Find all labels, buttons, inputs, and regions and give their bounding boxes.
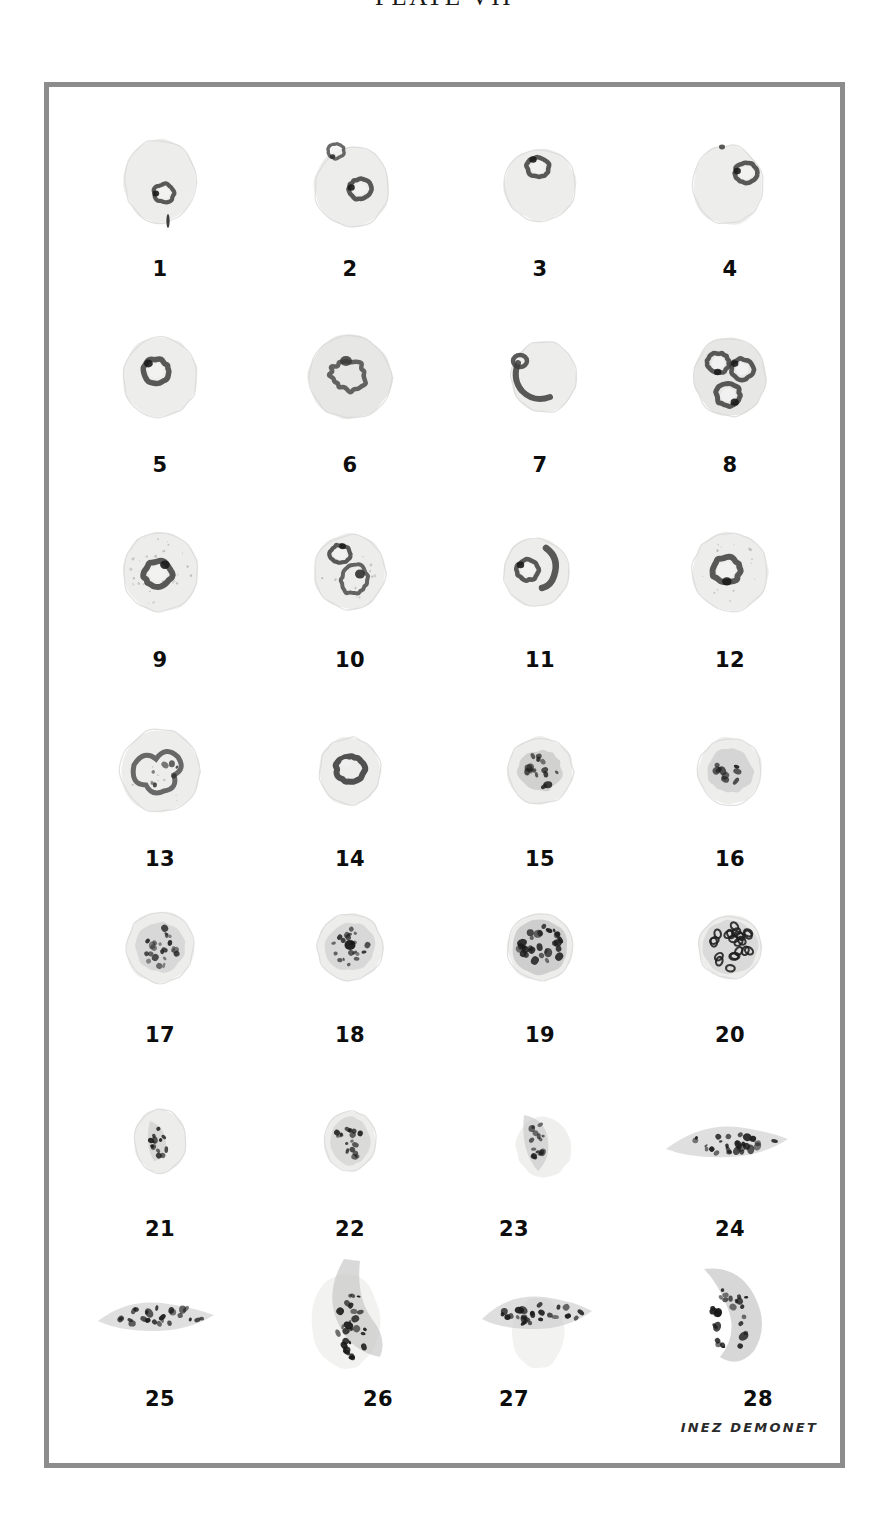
- figure-7: 7: [447, 305, 633, 501]
- specimen-illustration-11: [447, 500, 633, 650]
- figure-number-23: 23: [421, 1217, 607, 1241]
- figure-number-4: 4: [637, 257, 823, 281]
- specimen-illustration-24: [637, 1069, 823, 1219]
- plate-frame: 1234567891011121314151617181920212223242…: [44, 82, 845, 1468]
- specimen-illustration-21: [67, 1069, 253, 1219]
- figure-number-8: 8: [637, 453, 823, 477]
- figure-number-1: 1: [67, 257, 253, 281]
- page-title: PLATE VII: [0, 0, 888, 11]
- figure-number-25: 25: [67, 1387, 253, 1411]
- figure-9: 9: [67, 500, 253, 696]
- figure-number-5: 5: [67, 453, 253, 477]
- specimen-illustration-19: [447, 875, 633, 1025]
- figure-14: 14: [257, 699, 443, 895]
- figure-28: 28: [637, 1245, 823, 1441]
- figure-11: 11: [447, 500, 633, 696]
- figure-number-12: 12: [637, 648, 823, 672]
- specimen-illustration-27: [447, 1245, 633, 1395]
- figure-22: 22: [257, 1069, 443, 1265]
- specimen-illustration-6: [257, 305, 443, 455]
- plate-title-area: PLATE VII: [0, 0, 888, 12]
- figure-17: 17: [67, 875, 253, 1071]
- figure-number-27: 27: [421, 1387, 607, 1411]
- figure-grid: 1234567891011121314151617181920212223242…: [49, 87, 840, 1463]
- figure-number-17: 17: [67, 1023, 253, 1047]
- figure-number-16: 16: [637, 847, 823, 871]
- specimen-illustration-4: [637, 109, 823, 259]
- figure-10: 10: [257, 500, 443, 696]
- specimen-illustration-22: [257, 1069, 443, 1219]
- figure-number-19: 19: [447, 1023, 633, 1047]
- figure-1: 1: [67, 109, 253, 305]
- specimen-illustration-15: [447, 699, 633, 849]
- figure-number-18: 18: [257, 1023, 443, 1047]
- figure-number-21: 21: [67, 1217, 253, 1241]
- plate-inner: 1234567891011121314151617181920212223242…: [49, 87, 840, 1463]
- figure-15: 15: [447, 699, 633, 895]
- figure-number-15: 15: [447, 847, 633, 871]
- specimen-illustration-26: [257, 1245, 443, 1395]
- specimen-illustration-17: [67, 875, 253, 1025]
- figure-25: 25: [67, 1245, 253, 1441]
- specimen-illustration-23: [447, 1069, 633, 1219]
- figure-12: 12: [637, 500, 823, 696]
- artist-signature: INEZ DEMONET: [681, 1420, 818, 1435]
- figure-2: 2: [257, 109, 443, 305]
- figure-21: 21: [67, 1069, 253, 1265]
- specimen-illustration-10: [257, 500, 443, 650]
- specimen-illustration-8: [637, 305, 823, 455]
- figure-number-24: 24: [637, 1217, 823, 1241]
- figure-number-7: 7: [447, 453, 633, 477]
- specimen-illustration-14: [257, 699, 443, 849]
- figure-number-28: 28: [665, 1387, 851, 1411]
- figure-13: 13: [67, 699, 253, 895]
- figure-6: 6: [257, 305, 443, 501]
- figure-23: 23: [447, 1069, 633, 1265]
- figure-27: 27: [447, 1245, 633, 1441]
- specimen-illustration-13: [67, 699, 253, 849]
- figure-24: 24: [637, 1069, 823, 1265]
- specimen-illustration-16: [637, 699, 823, 849]
- figure-19: 19: [447, 875, 633, 1071]
- figure-8: 8: [637, 305, 823, 501]
- figure-4: 4: [637, 109, 823, 305]
- specimen-illustration-3: [447, 109, 633, 259]
- figure-26: 26: [257, 1245, 443, 1441]
- figure-number-13: 13: [67, 847, 253, 871]
- specimen-illustration-25: [67, 1245, 253, 1395]
- figure-number-10: 10: [257, 648, 443, 672]
- specimen-illustration-12: [637, 500, 823, 650]
- figure-number-20: 20: [637, 1023, 823, 1047]
- figure-number-11: 11: [447, 648, 633, 672]
- specimen-illustration-20: [637, 875, 823, 1025]
- figure-3: 3: [447, 109, 633, 305]
- specimen-illustration-1: [67, 109, 253, 259]
- figure-number-22: 22: [257, 1217, 443, 1241]
- specimen-illustration-18: [257, 875, 443, 1025]
- specimen-illustration-28: [637, 1245, 823, 1395]
- figure-16: 16: [637, 699, 823, 895]
- figure-number-6: 6: [257, 453, 443, 477]
- specimen-illustration-9: [67, 500, 253, 650]
- figure-number-14: 14: [257, 847, 443, 871]
- figure-number-9: 9: [67, 648, 253, 672]
- figure-number-2: 2: [257, 257, 443, 281]
- figure-5: 5: [67, 305, 253, 501]
- specimen-illustration-5: [67, 305, 253, 455]
- figure-18: 18: [257, 875, 443, 1071]
- figure-number-3: 3: [447, 257, 633, 281]
- specimen-illustration-2: [257, 109, 443, 259]
- specimen-illustration-7: [447, 305, 633, 455]
- figure-20: 20: [637, 875, 823, 1071]
